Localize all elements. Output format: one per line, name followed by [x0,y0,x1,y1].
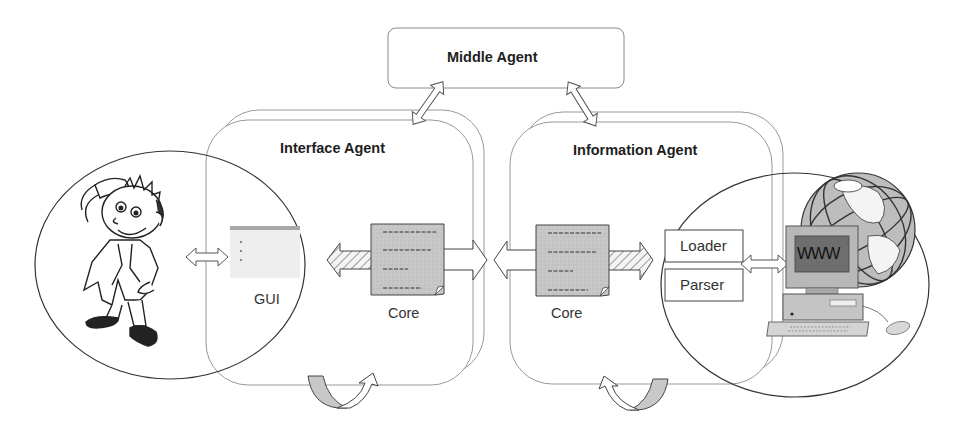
information-agent-label: Information Agent [573,142,697,158]
www-screen-text: WWW [797,245,839,263]
cartoon-user-icon [81,176,163,346]
loader-label: Loader [680,237,727,254]
document-icon [371,224,444,295]
middle-agent-label: Middle Agent [447,49,537,65]
document-icon [536,225,609,296]
gui-label: GUI [254,291,280,307]
interface-agent-label: Interface Agent [280,140,385,156]
parser-label: Parser [680,276,724,293]
diagram-canvas [0,0,966,440]
interface-core-label: Core [388,305,419,321]
gui-window-icon [230,226,300,278]
information-core-label: Core [551,305,582,321]
